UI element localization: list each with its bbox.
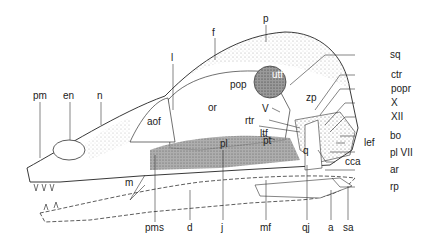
label-pl: pl xyxy=(220,139,228,149)
label-sq: sq xyxy=(390,50,401,60)
label-en: en xyxy=(63,91,74,101)
label-qj: qj xyxy=(302,223,310,233)
label-pt: pt xyxy=(263,136,271,146)
label-q: q xyxy=(303,146,309,156)
label-aof: aof xyxy=(147,117,161,127)
label-X: X xyxy=(391,98,398,108)
label-cca: cca xyxy=(345,157,361,167)
label-rp: rp xyxy=(390,182,399,192)
label-ar: ar xyxy=(390,165,399,175)
label-m: m xyxy=(125,178,133,188)
label-XII: XII xyxy=(391,112,403,122)
label-p: p xyxy=(263,14,269,24)
label-d: d xyxy=(187,223,193,233)
label-a: a xyxy=(328,223,334,233)
label-lef: lef xyxy=(364,138,375,148)
label-pm: pm xyxy=(33,91,47,101)
label-j: j xyxy=(221,223,223,233)
label-f: f xyxy=(212,28,215,38)
label-popr: popr xyxy=(391,84,411,94)
label-utf: utf xyxy=(272,70,283,80)
label-or: or xyxy=(208,103,217,113)
label-rtr: rtr xyxy=(245,116,254,126)
label-zp: zp xyxy=(306,93,317,103)
label-sa: sa xyxy=(343,223,354,233)
label-plVII: pl VII xyxy=(390,148,413,158)
label-bo: bo xyxy=(390,131,401,141)
label-ctr: ctr xyxy=(391,70,402,80)
label-n: n xyxy=(97,91,103,101)
label-pop: pop xyxy=(230,80,247,90)
label-pms: pms xyxy=(145,223,164,233)
label-V: V xyxy=(262,104,269,114)
skull-drawing xyxy=(0,0,434,245)
label-mf: mf xyxy=(260,223,271,233)
label-l: l xyxy=(171,53,173,63)
